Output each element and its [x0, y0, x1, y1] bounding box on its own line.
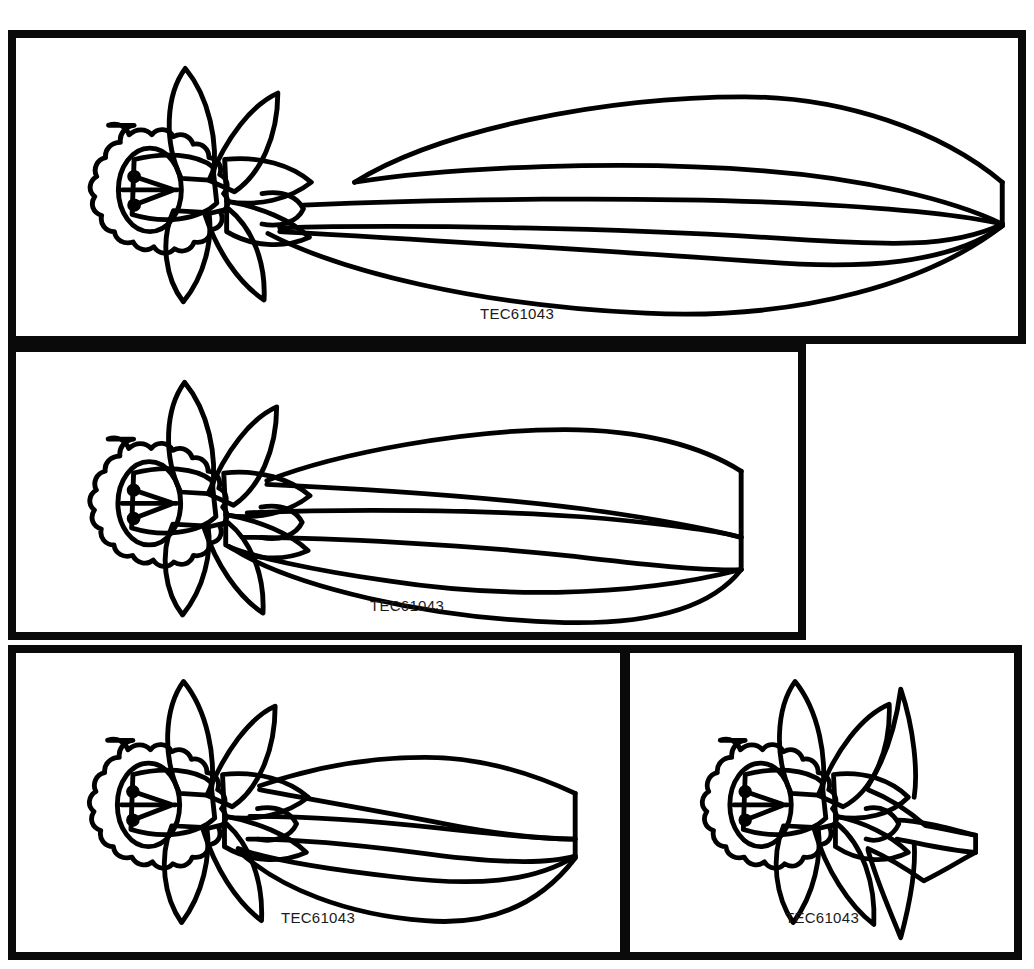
design-panel-1[interactable]: TEC61043 [8, 30, 1026, 344]
daffodil-artwork-1 [16, 38, 1018, 336]
daffodil-artwork-4 [630, 653, 1014, 952]
design-panel-4[interactable]: TEC61043 [622, 645, 1022, 960]
design-sheet: TEC61043 [0, 0, 1034, 969]
daffodil-artwork-3 [16, 653, 620, 952]
panel-caption: TEC61043 [16, 909, 620, 926]
daffodil-artwork-2 [16, 352, 798, 632]
panel-caption: TEC61043 [630, 909, 1014, 926]
panel-caption: TEC61043 [16, 305, 1018, 322]
design-panel-3[interactable]: TEC61043 [8, 645, 628, 960]
design-panel-2[interactable]: TEC61043 [8, 344, 806, 640]
panel-caption: TEC61043 [16, 597, 798, 614]
